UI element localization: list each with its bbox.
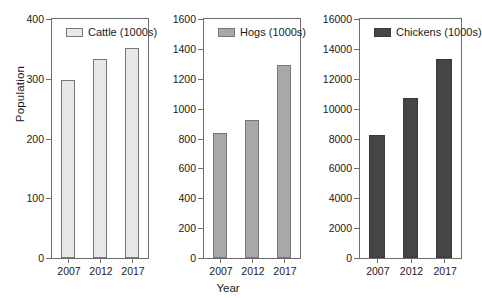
x-tick-label-cattle-2017: 2017 <box>121 265 144 277</box>
y-tick-hogs-1200: 1200 <box>198 79 204 80</box>
legend-label-chickens: Chickens (1000s) <box>396 26 482 38</box>
y-tick-label-hogs-800: 800 <box>178 133 196 146</box>
legend-chickens: Chickens (1000s) <box>374 26 482 38</box>
y-tick-cattle-0: 0 <box>46 258 52 259</box>
x-tick-chickens-2012: 2012 <box>411 258 412 263</box>
x-tick-label-cattle-2007: 2007 <box>57 265 80 277</box>
legend-label-cattle: Cattle (1000s) <box>88 26 157 38</box>
y-tick-cattle-400: 400 <box>46 19 52 20</box>
y-tick-label-hogs-600: 600 <box>178 162 196 175</box>
y-tick-chickens-16000: 16000 <box>354 19 360 20</box>
y-tick-label-cattle-400: 400 <box>26 13 44 26</box>
bar-hogs-2017 <box>277 65 292 258</box>
y-tick-label-hogs-1200: 1200 <box>173 73 196 86</box>
x-tick-label-chickens-2012: 2012 <box>400 265 423 277</box>
y-tick-chickens-2000: 2000 <box>354 228 360 229</box>
y-tick-label-chickens-6000: 6000 <box>329 162 352 175</box>
legend-swatch-chickens <box>374 28 391 37</box>
x-axis-title-hogs: Year <box>152 282 304 294</box>
x-tick-label-hogs-2017: 2017 <box>273 265 296 277</box>
plot-area-chickens: Chickens (1000s) 02000400060008000100001… <box>359 18 462 259</box>
y-tick-hogs-1000: 1000 <box>198 109 204 110</box>
y-tick-label-hogs-400: 400 <box>178 192 196 205</box>
y-tick-label-hogs-1400: 1400 <box>173 43 196 56</box>
y-tick-hogs-800: 800 <box>198 139 204 140</box>
y-tick-chickens-14000: 14000 <box>354 49 360 50</box>
y-tick-chickens-8000: 8000 <box>354 139 360 140</box>
y-tick-cattle-200: 200 <box>46 139 52 140</box>
y-tick-chickens-0: 0 <box>354 258 360 259</box>
bar-chickens-2012 <box>403 98 418 258</box>
plot-area-hogs: Hogs (1000s) 020040060080010001200140016… <box>203 18 301 259</box>
legend-swatch-cattle <box>66 28 83 37</box>
y-tick-hogs-400: 400 <box>198 198 204 199</box>
y-tick-label-chickens-10000: 10000 <box>323 103 352 116</box>
y-tick-hogs-200: 200 <box>198 228 204 229</box>
legend-label-hogs: Hogs (1000s) <box>240 26 306 38</box>
y-tick-label-chickens-12000: 12000 <box>323 73 352 86</box>
y-tick-label-hogs-200: 200 <box>178 222 196 235</box>
x-tick-chickens-2017: 2017 <box>444 258 445 263</box>
y-tick-hogs-0: 0 <box>198 258 204 259</box>
y-tick-hogs-1600: 1600 <box>198 19 204 20</box>
y-tick-chickens-12000: 12000 <box>354 79 360 80</box>
bar-cattle-2012 <box>93 59 108 258</box>
y-tick-label-hogs-1000: 1000 <box>173 103 196 116</box>
legend-cattle: Cattle (1000s) <box>66 26 157 38</box>
x-tick-chickens-2007: 2007 <box>377 258 378 263</box>
y-tick-label-chickens-2000: 2000 <box>329 222 352 235</box>
x-tick-hogs-2007: 2007 <box>220 258 221 263</box>
y-tick-label-hogs-1600: 1600 <box>173 13 196 26</box>
x-tick-label-cattle-2012: 2012 <box>89 265 112 277</box>
legend-swatch-hogs <box>218 28 235 37</box>
panel-chickens: Chickens (1000s) 02000400060008000100001… <box>304 0 467 298</box>
bar-cattle-2007 <box>61 80 76 258</box>
y-tick-label-cattle-200: 200 <box>26 133 44 146</box>
x-tick-label-chickens-2007: 2007 <box>366 265 389 277</box>
x-tick-cattle-2007: 2007 <box>68 258 69 263</box>
x-tick-label-hogs-2007: 2007 <box>209 265 232 277</box>
panel-hogs: Hogs (1000s) 020040060080010001200140016… <box>152 0 304 298</box>
x-tick-label-chickens-2017: 2017 <box>433 265 456 277</box>
x-tick-cattle-2017: 2017 <box>132 258 133 263</box>
legend-hogs: Hogs (1000s) <box>218 26 306 38</box>
bar-hogs-2012 <box>245 120 260 258</box>
y-tick-label-chickens-14000: 14000 <box>323 43 352 56</box>
y-tick-label-chickens-0: 0 <box>346 252 352 265</box>
bar-chickens-2017 <box>436 59 451 258</box>
y-tick-label-chickens-8000: 8000 <box>329 133 352 146</box>
bar-cattle-2017 <box>125 48 140 258</box>
y-tick-hogs-600: 600 <box>198 168 204 169</box>
y-tick-label-chickens-4000: 4000 <box>329 192 352 205</box>
x-tick-label-hogs-2012: 2012 <box>241 265 264 277</box>
x-tick-hogs-2012: 2012 <box>252 258 253 263</box>
y-tick-label-cattle-100: 100 <box>26 192 44 205</box>
plot-area-cattle: Cattle (1000s) 0100200300400200720122017 <box>51 18 149 259</box>
x-tick-hogs-2017: 2017 <box>284 258 285 263</box>
x-tick-cattle-2012: 2012 <box>100 258 101 263</box>
bar-chickens-2007 <box>369 135 384 258</box>
y-tick-label-cattle-300: 300 <box>26 73 44 86</box>
y-tick-hogs-1400: 1400 <box>198 49 204 50</box>
y-tick-label-chickens-16000: 16000 <box>323 13 352 26</box>
bar-hogs-2007 <box>213 133 228 258</box>
y-tick-chickens-4000: 4000 <box>354 198 360 199</box>
y-tick-chickens-6000: 6000 <box>354 168 360 169</box>
y-tick-chickens-10000: 10000 <box>354 109 360 110</box>
y-tick-label-cattle-0: 0 <box>38 252 44 265</box>
panel-cattle: Cattle (1000s) 0100200300400200720122017 <box>0 0 152 298</box>
y-tick-label-hogs-0: 0 <box>190 252 196 265</box>
y-tick-cattle-300: 300 <box>46 79 52 80</box>
y-tick-cattle-100: 100 <box>46 198 52 199</box>
